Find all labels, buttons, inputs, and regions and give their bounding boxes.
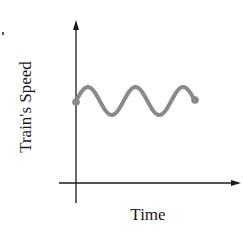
x-axis-label: Time — [130, 205, 165, 224]
speed-curve — [76, 87, 195, 115]
chart: Time Train's Speed — [0, 0, 243, 234]
y-axis-label: Train's Speed — [16, 61, 35, 153]
end-point — [191, 96, 199, 104]
start-point — [72, 98, 80, 106]
y-axis-arrow-icon — [73, 20, 79, 30]
x-axis-arrow-icon — [231, 180, 241, 186]
